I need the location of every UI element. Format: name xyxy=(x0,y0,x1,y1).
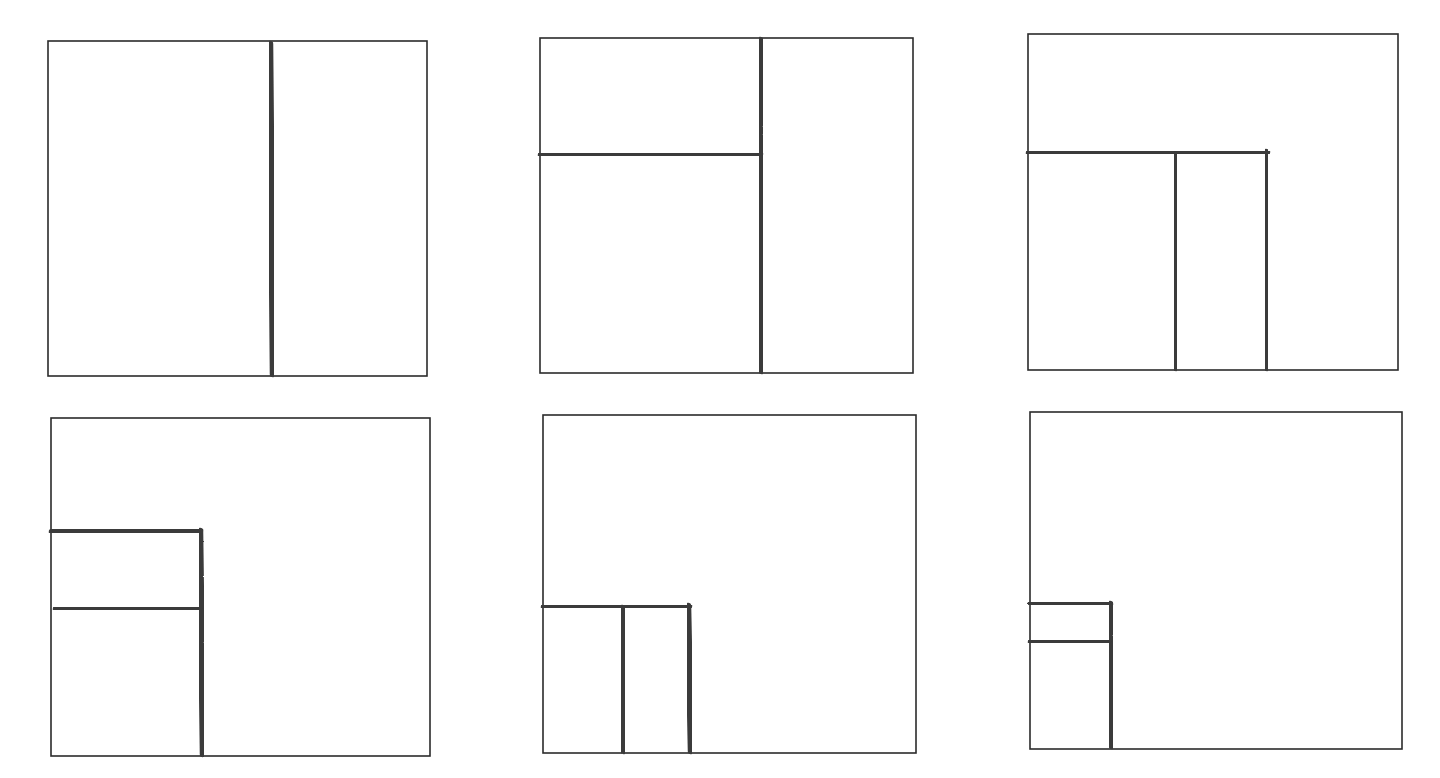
panel-frame xyxy=(1030,412,1402,749)
division-line xyxy=(688,606,691,751)
division-line xyxy=(1029,152,1267,153)
division-line xyxy=(52,530,200,532)
panels-layer xyxy=(48,34,1402,756)
division-line xyxy=(56,608,199,609)
panel-5 xyxy=(543,415,916,753)
panel-3 xyxy=(1028,34,1398,370)
panel-1 xyxy=(48,41,427,376)
division-line xyxy=(541,154,760,155)
division-line xyxy=(200,531,203,754)
panel-6 xyxy=(1030,412,1402,749)
division-line xyxy=(1031,641,1108,642)
division-line xyxy=(1031,603,1110,604)
division-line xyxy=(1110,604,1112,746)
panel-4 xyxy=(51,418,430,756)
panel-frame xyxy=(51,418,430,756)
division-line xyxy=(760,40,762,371)
panel-frame xyxy=(540,38,913,373)
division-line xyxy=(1175,155,1176,368)
panel-frame xyxy=(48,41,427,376)
division-line xyxy=(544,606,689,607)
panel-2 xyxy=(540,38,913,373)
division-line xyxy=(270,44,273,374)
division-line xyxy=(1266,152,1267,368)
panel-frame xyxy=(543,415,916,753)
diagram-canvas xyxy=(0,0,1440,778)
division-line xyxy=(622,608,624,751)
panel-frame xyxy=(1028,34,1398,370)
